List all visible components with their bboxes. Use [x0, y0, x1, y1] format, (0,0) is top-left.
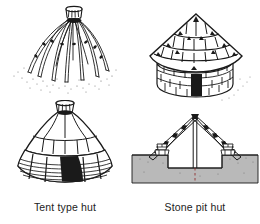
tent-hut-diagram [0, 100, 130, 196]
thatch-roof [150, 14, 242, 72]
doorway [191, 74, 202, 96]
apex-crown [66, 6, 82, 23]
pole-frame-diagram [0, 0, 130, 104]
caption-stone-pit-hut: Stone pit hut [130, 196, 260, 218]
pit-hut-section-diagram [130, 100, 260, 196]
hut-types-figure: Tent type hut Stone pit hut [0, 0, 260, 224]
caption-tent-type-hut: Tent type hut [0, 196, 130, 218]
stone-thatch-hut-diagram [130, 0, 260, 104]
apex-crown [56, 100, 74, 115]
